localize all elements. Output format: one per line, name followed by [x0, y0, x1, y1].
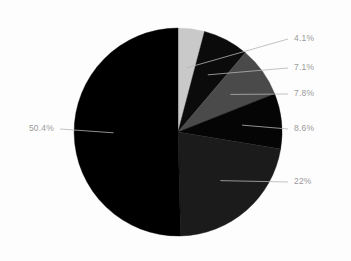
- slice-percent-label: 8.6%: [294, 124, 314, 133]
- slice-percent-label: 7.8%: [294, 89, 314, 98]
- pie-slice[interactable]: [178, 132, 281, 236]
- pie-slice[interactable]: [74, 28, 180, 236]
- slice-percent-label: 22%: [294, 177, 312, 186]
- slice-percent-label: 4.1%: [294, 34, 314, 43]
- slice-percent-label: 50.4%: [0, 124, 54, 133]
- pie-chart-figure: 4.1%7.1%7.8%8.6%22%50.4%: [0, 0, 351, 261]
- slice-percent-label: 7.1%: [294, 63, 314, 72]
